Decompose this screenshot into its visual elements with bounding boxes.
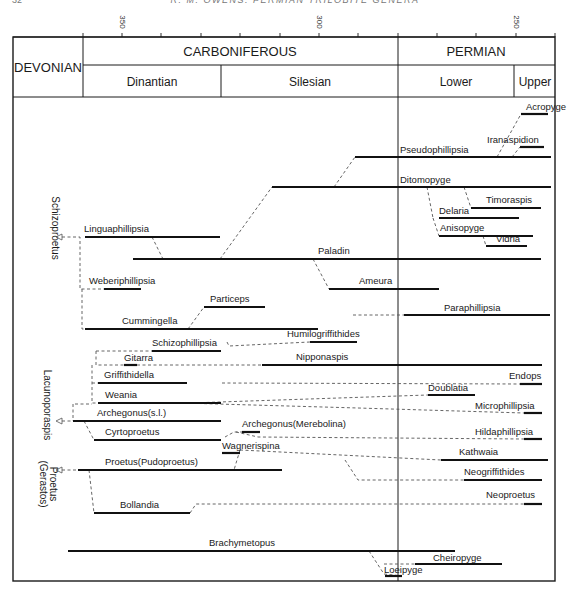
genus-label: Nipponaspis <box>296 351 349 362</box>
lineage-link <box>92 365 98 403</box>
silesian-label: Silesian <box>289 75 331 89</box>
genus-label: Paraphillipsia <box>444 302 501 313</box>
genus-label: Weania <box>105 389 138 400</box>
lineage-arrows <box>56 234 62 473</box>
group-label: Lacunoporaspis <box>42 370 53 441</box>
genus-label: Neoproetus <box>486 489 535 500</box>
genus-label: Proetus(Pudoproetus) <box>105 456 198 467</box>
genus-label: Ditomopyge <box>400 174 451 185</box>
lineage-link <box>89 470 94 513</box>
devonian-label: DEVONIAN <box>14 60 82 75</box>
genus-label: Doublatia <box>428 382 469 393</box>
genus-label: Linguaphillipsia <box>84 223 150 234</box>
axis-tick-label: 250 <box>512 15 521 29</box>
lineage-link <box>334 157 355 187</box>
lineage-link <box>220 187 272 259</box>
lineage-link <box>190 395 428 403</box>
axis-tick-label: 350 <box>118 15 127 29</box>
lineage-link <box>84 421 94 440</box>
lineage-link <box>433 218 439 236</box>
dinantian-label: Dinantian <box>127 75 178 89</box>
lineage-link <box>512 147 520 157</box>
genus-label: Weberiphillipsia <box>89 275 156 286</box>
period-header: DEVONIAN CARBONIFEROUS PERMIAN Dinantian… <box>14 44 551 89</box>
genus-label: Ameura <box>359 275 393 286</box>
genus-label: Vidria <box>496 233 521 244</box>
genus-label: Cummingella <box>122 315 178 326</box>
time-axis: 350300250 <box>83 15 555 37</box>
genus-label: Loeipyge <box>384 564 423 575</box>
genus-label: Kathwaia <box>459 446 499 457</box>
genus-label: Archegonus(Merebolina) <box>242 418 346 429</box>
genus-label: Neogriffithides <box>464 466 525 477</box>
lineage-link <box>96 351 262 365</box>
lineage-link <box>227 342 310 346</box>
genus-label: Anisopyge <box>440 222 484 233</box>
lineage-link <box>345 460 464 480</box>
group-labels: SchizoproetusLacunoporaspisProetus(Geras… <box>38 196 61 507</box>
axis-tick-label: 300 <box>315 15 324 29</box>
lineage-link <box>313 259 329 289</box>
genus-label: Griffithidella <box>104 369 155 380</box>
lineage-link <box>182 403 524 413</box>
genus-label: Gitarra <box>124 352 154 363</box>
genus-label: Brachymetopus <box>209 537 275 548</box>
genus-label: Cyrtoproetus <box>105 426 160 437</box>
genus-label: Timoraspis <box>486 194 532 205</box>
lineage-link <box>190 504 524 513</box>
genus-label: Particeps <box>210 293 250 304</box>
genus-label: Archegonus(s.l.) <box>97 407 166 418</box>
genus-label: Wagnerispina <box>222 440 280 451</box>
upper-permian-label: Upper <box>519 75 552 89</box>
genus-label: Pseudophillipsia <box>400 144 469 155</box>
genus-label: Paladin <box>318 245 350 256</box>
group-label: (Gerastos) <box>38 460 49 507</box>
permian-label: PERMIAN <box>446 44 505 59</box>
genus-label: Iranaspidion <box>487 134 539 145</box>
lineage-link <box>427 187 433 218</box>
genus-label: Bollandia <box>120 499 160 510</box>
group-label: Schizoproetus <box>50 196 61 259</box>
lineage-link <box>222 383 520 384</box>
genus-label: Microphillipsia <box>475 400 535 411</box>
lineage-link <box>483 236 486 246</box>
genus-label: Delaria <box>439 205 470 216</box>
carboniferous-label: CARBONIFEROUS <box>183 44 297 59</box>
genus-label: Schizophillipsia <box>152 337 218 348</box>
lower-permian-label: Lower <box>440 75 473 89</box>
genus-label: Humilogriffithides <box>287 328 360 339</box>
range-chart: 350300250 DEVONIAN CARBONIFEROUS PERMIAN… <box>0 0 573 591</box>
genus-label: Endops <box>509 370 541 381</box>
lineage-link <box>225 432 242 437</box>
lineage-link <box>82 289 85 329</box>
genus-label: Cheiropyge <box>433 552 482 563</box>
lineage-link <box>240 450 441 460</box>
lineage-link <box>152 237 163 259</box>
genus-label: Acropyge <box>526 101 566 112</box>
arrow-left-icon <box>56 418 62 424</box>
genus-label: Hildaphillipsia <box>475 426 534 437</box>
lineage-link <box>188 307 204 329</box>
